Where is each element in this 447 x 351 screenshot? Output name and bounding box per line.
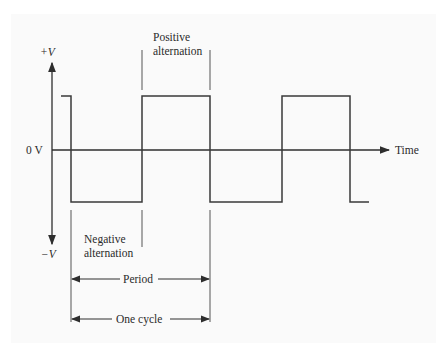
positive-alternation-label-line2: alternation xyxy=(153,44,202,58)
cycle-markers xyxy=(71,210,210,322)
one-cycle-label: One cycle xyxy=(116,312,162,326)
square-waveform xyxy=(61,96,369,202)
y-positive-label: +V xyxy=(40,45,55,59)
period-label: Period xyxy=(123,272,153,286)
square-wave-diagram xyxy=(0,0,447,351)
negative-alternation-label-line1: Negative xyxy=(84,232,126,246)
positive-alternation-label-line1: Positive xyxy=(153,30,190,44)
zero-volt-label: 0 V xyxy=(26,143,43,157)
time-axis-label: Time xyxy=(395,143,419,157)
negative-alternation-label-line2: alternation xyxy=(84,246,133,260)
y-negative-label: −V xyxy=(41,247,56,261)
